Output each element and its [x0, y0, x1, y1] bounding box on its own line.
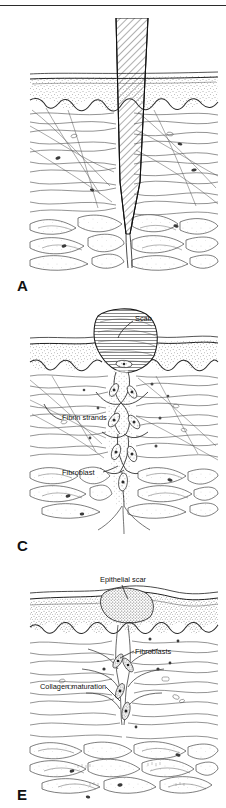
label-scab: Scab	[135, 314, 152, 323]
label-collagen-maturation: Collagen maturation	[40, 682, 106, 691]
label-fibroblasts: Fibroblasts	[135, 647, 171, 656]
figure-root: A	[0, 0, 226, 808]
label-epithelial-scar: Epithelial scar	[100, 575, 147, 584]
panel-a-illustration	[28, 18, 220, 274]
label-fibroblast: Fibroblast	[62, 468, 94, 477]
page-top-rule	[0, 5, 226, 6]
panel-letter-e: E	[17, 786, 27, 803]
panel-c-illustration: Scab Fibrin strands Fibroblast	[28, 300, 220, 536]
panel-e-illustration: Epithelial scar Fibroblasts Collagen mat…	[28, 565, 220, 803]
label-fibrin-strands: Fibrin strands	[62, 413, 107, 422]
panel-letter-a: A	[17, 277, 28, 294]
panel-letter-c: C	[17, 537, 28, 554]
